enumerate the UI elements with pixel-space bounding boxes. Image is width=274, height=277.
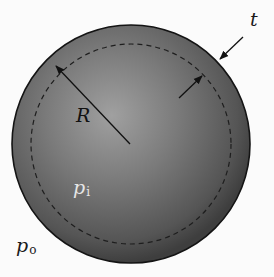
outer-pressure-subscript: o [29,243,36,257]
pressure-vessel-diagram: t R pi po [0,0,274,277]
outer-pressure-symbol: p [16,234,28,256]
sphere-outer-surface [12,25,250,263]
sphere-drawing [0,0,274,277]
inner-pressure-label: pi [73,178,90,197]
inner-pressure-symbol: p [73,176,85,198]
radius-label: R [76,106,90,125]
thickness-label: t [250,10,258,29]
outer-pressure-label: po [16,236,36,255]
thickness-arrow-outer [220,37,243,59]
inner-pressure-subscript: i [86,185,90,199]
